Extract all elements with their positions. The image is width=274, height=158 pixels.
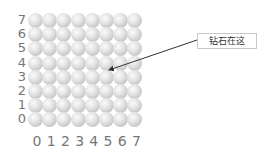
callout-label: 钻石在这 <box>197 33 257 49</box>
arrow-icon <box>0 0 274 158</box>
